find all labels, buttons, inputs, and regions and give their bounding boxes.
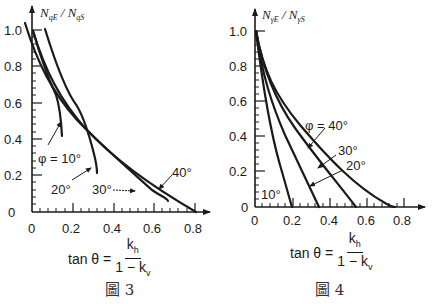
label-phi-40: φ = 40° [305, 118, 348, 133]
x-tick-label: 0 [251, 213, 258, 228]
x-tick-label: 0 [28, 221, 35, 236]
x-tick-label: 0.6 [357, 213, 375, 228]
x-tick-label: 0.8 [184, 221, 202, 236]
label-30deg: 30° [338, 143, 358, 158]
chart-figure-4: 1.0 0.8 0.6 0.4 0.2 0 0 0.2 0.4 0.6 0.8 … [229, 7, 425, 228]
figure-4-caption: 圖 4 [315, 278, 344, 299]
x-axis-formula-figure-3: tan θ = kh 1 − kv [68, 237, 150, 281]
x-tick-label: 0.2 [283, 213, 301, 228]
formula-fraction: kh 1 − kv [337, 231, 372, 275]
y-tick-label: 0.6 [229, 94, 247, 109]
formula-lhs: tan θ = [290, 245, 333, 261]
annotation-arrow-20 [72, 168, 91, 180]
y-tick-label: 0.2 [4, 168, 22, 183]
figure-3-caption: 圖 3 [105, 278, 134, 299]
formula-numerator: kh [347, 231, 363, 253]
formula-numerator: kh [125, 237, 141, 259]
y-tick-label: 1.0 [4, 23, 22, 38]
label-10deg: 10° [261, 187, 281, 202]
x-tick-label: 0.6 [143, 221, 161, 236]
label-40deg: 40° [172, 165, 192, 180]
x-major-ticks [73, 203, 195, 212]
x-tick-label: 0.4 [103, 221, 121, 236]
y-tick-label: 0.4 [229, 129, 247, 144]
formula-fraction: kh 1 − kv [115, 237, 150, 281]
y-tick-label: 1.0 [229, 24, 247, 39]
x-tick-label: 0.2 [62, 221, 80, 236]
y-tick-label: 0.4 [4, 132, 22, 147]
x-axis-formula-figure-4: tan θ = kh 1 − kv [290, 231, 372, 275]
annotation-arrow-40 [159, 175, 172, 189]
y-tick-label: 0 [8, 205, 15, 220]
formula-lhs: tan θ = [68, 251, 111, 267]
curve-10deg [33, 31, 62, 136]
y-axis-title: NγE / NγS [261, 7, 305, 24]
label-phi-10: φ = 10° [38, 151, 81, 166]
label-20deg: 20° [51, 182, 71, 197]
chart-figure-3: 1.0 0.8 0.6 0.4 0.2 0 0 0.2 0.4 0.6 0.8 … [4, 5, 210, 236]
x-tick-label: 0.8 [393, 213, 411, 228]
label-20deg: 20° [346, 158, 366, 173]
label-30deg: 30° [92, 182, 112, 197]
y-tick-label: 0.6 [4, 96, 22, 111]
y-axis-title: NqE / NqS [39, 5, 84, 22]
x-major-ticks [293, 198, 404, 207]
curve-30deg [25, 23, 168, 201]
annotation-arrow-10 [48, 122, 61, 145]
y-tick-label: 0.2 [229, 164, 247, 179]
x-tick-label: 0.4 [320, 213, 338, 228]
y-tick-label: 0.8 [4, 59, 22, 74]
y-tick-label: 0 [241, 200, 248, 215]
y-tick-label: 0.8 [229, 59, 247, 74]
annotation-arrow-30 [113, 190, 135, 191]
formula-denominator: 1 − kv [337, 253, 372, 275]
